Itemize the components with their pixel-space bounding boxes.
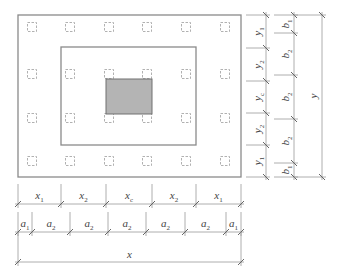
column-square-icon <box>66 114 75 123</box>
dimension-label: x2 <box>78 189 88 204</box>
column-square-icon <box>143 23 152 32</box>
column-square-icon <box>143 114 152 123</box>
dimension-label: b1 <box>279 19 294 29</box>
dimension-label: a1 <box>21 217 31 232</box>
dimension-label: y <box>307 93 319 99</box>
dimension-label: x <box>126 248 132 260</box>
column-square-icon <box>66 157 75 166</box>
dimension-label: x2 <box>169 189 179 204</box>
column-square-icon <box>105 114 114 123</box>
column-square-icon <box>28 23 37 32</box>
dimension-label: a2 <box>47 217 57 232</box>
dimension-label: a2 <box>201 217 211 232</box>
dimension-label: b2 <box>279 136 294 146</box>
dimension-label: y2 <box>251 124 266 134</box>
column-square-icon <box>221 157 230 166</box>
column-square-icon <box>143 157 152 166</box>
column-square-icon <box>221 23 230 32</box>
dimension-label: b1 <box>279 165 294 175</box>
dimension-label: a1 <box>229 217 239 232</box>
column-square-icon <box>66 70 75 79</box>
dimension-label: b2 <box>279 49 294 59</box>
structural-plan-diagram: x1x2xcx2x1a1a2a2a2a2a2a1x y1y2ycy2y1b1b2… <box>0 0 345 280</box>
dimension-label: y2 <box>251 60 266 70</box>
horizontal-dimensions: x1x2xcx2x1a1a2a2a2a2a2a1x <box>15 184 244 266</box>
dimension-label: b2 <box>279 92 294 102</box>
dimension-label: y1 <box>251 156 266 166</box>
dimension-label: yc <box>251 93 266 102</box>
column-square-icon <box>105 70 114 79</box>
column-square-icon <box>28 114 37 123</box>
dimension-label: a2 <box>85 217 95 232</box>
column-square-icon <box>221 114 230 123</box>
dimension-label: y1 <box>251 27 266 37</box>
column-square-icon <box>105 23 114 32</box>
core-shaded-rect <box>106 79 152 114</box>
column-square-icon <box>143 70 152 79</box>
column-square-icon <box>221 70 230 79</box>
column-square-icon <box>182 114 191 123</box>
dimension-label: x1 <box>34 189 44 204</box>
dimension-label: a2 <box>123 217 133 232</box>
column-square-icon <box>182 157 191 166</box>
column-square-icon <box>182 23 191 32</box>
dimension-label: xc <box>124 189 133 204</box>
column-square-icon <box>182 70 191 79</box>
column-square-icon <box>66 23 75 32</box>
column-square-icon <box>28 157 37 166</box>
vertical-dimensions: y1y2ycy2y1b1b2b2b2b1y <box>246 12 326 180</box>
column-square-icon <box>28 70 37 79</box>
column-square-icon <box>105 157 114 166</box>
dimension-label: a2 <box>161 217 171 232</box>
dimension-label: x1 <box>213 189 223 204</box>
